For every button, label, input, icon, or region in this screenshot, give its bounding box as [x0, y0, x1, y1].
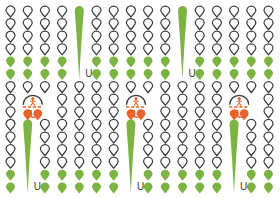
person-body-icon	[134, 100, 139, 105]
tall-pin-label: U	[137, 182, 144, 192]
tall-green-pin-icon	[178, 6, 187, 80]
tall-green-pin-icon	[75, 6, 84, 80]
person-body-icon	[31, 100, 36, 105]
tall-green-pin-icon	[23, 119, 32, 193]
motif-label: U	[236, 109, 244, 119]
tall-green-pin-icon	[230, 119, 239, 193]
person-body-icon	[237, 100, 242, 105]
motif-label: U	[30, 109, 38, 119]
motif-label: U	[133, 109, 141, 119]
tall-pin-label: U	[240, 182, 247, 192]
pictogram-canvas: UUUUUUUU	[0, 0, 280, 198]
tall-pin-label: U	[189, 69, 196, 79]
motif-overlay-layer	[0, 0, 280, 198]
tall-pin-label: U	[34, 182, 41, 192]
tall-pin-label: U	[85, 69, 92, 79]
tall-green-pin-icon	[126, 119, 135, 193]
